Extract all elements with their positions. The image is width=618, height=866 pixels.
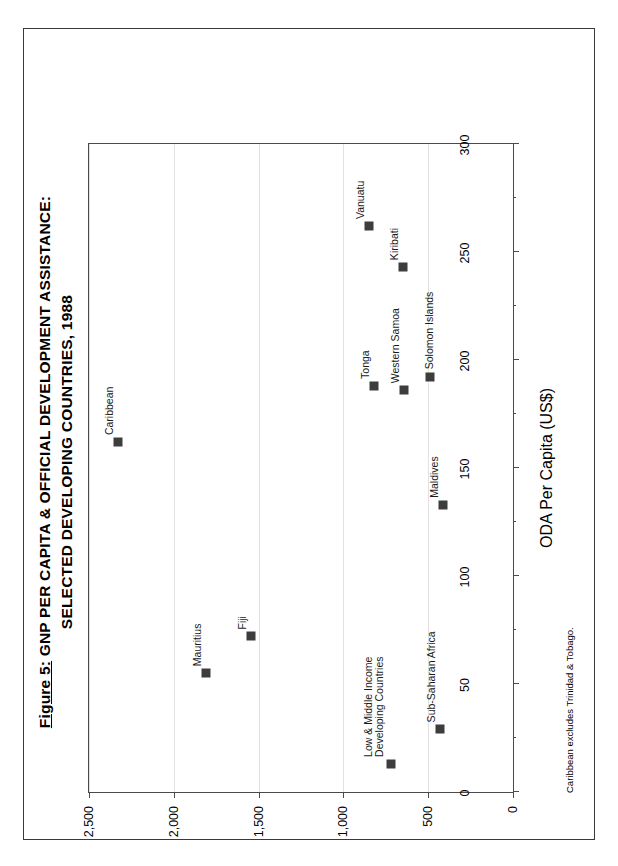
x-tick-minor-275 <box>513 197 516 198</box>
x-tick-label-50: 50 <box>458 678 472 692</box>
x-tick-minor-75 <box>513 629 516 630</box>
data-point-label: Maldives <box>429 456 441 497</box>
data-point-marker[interactable] <box>369 381 378 390</box>
x-tick-minor-175 <box>513 413 516 414</box>
x-tick-label-300: 300 <box>458 135 472 156</box>
figure-number: Figure 5: <box>36 661 53 728</box>
data-point-label: Caribbean <box>104 387 116 435</box>
x-tick-100 <box>513 575 519 576</box>
data-point-marker[interactable] <box>246 632 255 641</box>
data-point-marker[interactable] <box>436 725 445 734</box>
data-point-label: Kiribati <box>389 228 401 260</box>
y-tick-0 <box>513 792 514 798</box>
y-tick-1500 <box>259 792 260 798</box>
data-point-marker[interactable] <box>425 373 434 382</box>
plot-area: 05001,0001,5002,0002,500CaribbeanMauriti… <box>88 143 514 793</box>
x-tick-minor-25 <box>513 737 516 738</box>
gridline-y-2500 <box>89 144 90 792</box>
x-tick-label-0: 0 <box>458 790 472 797</box>
x-tick-label-100: 100 <box>458 567 472 588</box>
x-tick-label-200: 200 <box>458 351 472 372</box>
data-point-marker[interactable] <box>400 386 409 395</box>
x-tick-50 <box>513 683 519 684</box>
x-tick-label-150: 150 <box>458 459 472 480</box>
data-point-marker[interactable] <box>113 438 122 447</box>
figure-footnote: Caribbean excludes Trinidad & Tobago. <box>564 627 575 793</box>
data-point-marker[interactable] <box>386 759 395 768</box>
data-point-marker[interactable] <box>439 500 448 509</box>
data-point-marker[interactable] <box>398 263 407 272</box>
figure-title-block: Figure 5: GNP PER CAPITA & OFFICIAL DEVE… <box>34 59 78 865</box>
data-point-label: Sub-Saharan Africa <box>426 631 438 722</box>
x-tick-250 <box>513 251 519 252</box>
figure-title-line-1: Figure 5: GNP PER CAPITA & OFFICIAL DEVE… <box>34 59 56 865</box>
figure-title-text-1: GNP PER CAPITA & OFFICIAL DEVELOPMENT AS… <box>36 196 53 656</box>
y-tick-label-2500: 2,500 <box>82 806 96 837</box>
gridline-y-1000 <box>343 144 344 792</box>
y-tick-2000 <box>174 792 175 798</box>
y-tick-2500 <box>89 792 90 798</box>
data-point-label: Low & Middle Income Developing Countries <box>363 639 386 757</box>
data-point-label: Western Samoa <box>390 308 402 383</box>
x-tick-200 <box>513 359 519 360</box>
x-tick-150 <box>513 467 519 468</box>
y-tick-label-1000: 1,000 <box>336 806 350 837</box>
y-tick-label-1500: 1,500 <box>252 806 266 837</box>
x-tick-minor-125 <box>513 521 516 522</box>
data-point-marker[interactable] <box>202 669 211 678</box>
y-tick-label-0: 0 <box>506 806 520 813</box>
data-point-marker[interactable] <box>364 222 373 231</box>
data-point-label: Mauritius <box>192 624 204 667</box>
figure-rotated-container: Figure 5: GNP PER CAPITA & OFFICIAL DEVE… <box>24 59 590 865</box>
gridline-y-1500 <box>259 144 260 792</box>
y-tick-label-2000: 2,000 <box>167 806 181 837</box>
y-tick-500 <box>428 792 429 798</box>
x-tick-300 <box>513 143 519 144</box>
x-axis-title: ODA Per Capita (US$) <box>538 143 556 793</box>
data-point-label: Fiji <box>237 616 249 629</box>
data-point-label: Tonga <box>360 350 372 379</box>
x-tick-label-250: 250 <box>458 243 472 264</box>
data-point-label: Vanuatu <box>355 181 367 219</box>
figure-title-line-2: SELECTED DEVELOPING COUNTRIES, 1988 <box>56 59 78 865</box>
x-tick-minor-225 <box>513 305 516 306</box>
data-point-label: Solomon Islands <box>424 292 436 370</box>
y-tick-label-500: 500 <box>421 806 435 827</box>
gridline-y-2000 <box>174 144 175 792</box>
page-border: Figure 5: GNP PER CAPITA & OFFICIAL DEVE… <box>23 28 595 840</box>
y-tick-1000 <box>343 792 344 798</box>
